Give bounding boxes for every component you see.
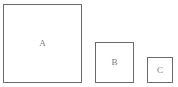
- square-c: C: [147, 57, 173, 83]
- square-b-label: B: [111, 58, 117, 67]
- square-c-label: C: [157, 66, 163, 75]
- square-a-label: A: [39, 39, 46, 48]
- square-b: B: [95, 42, 134, 83]
- square-a: A: [3, 4, 82, 83]
- diagram-canvas: A B C: [0, 0, 178, 87]
